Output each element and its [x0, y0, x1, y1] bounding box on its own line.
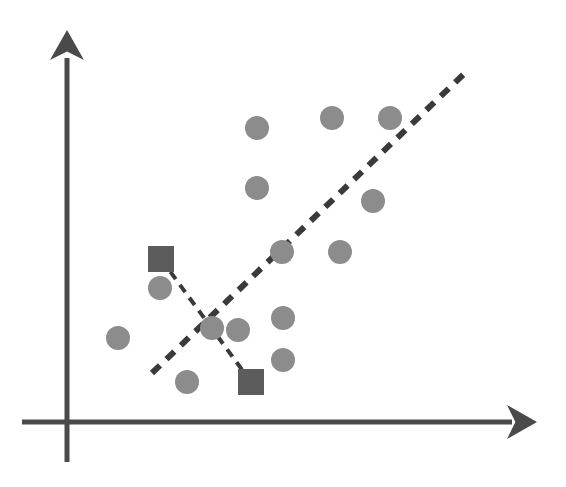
data-point [361, 189, 385, 213]
data-point [245, 176, 269, 200]
data-point [148, 276, 172, 300]
upper-left-square [148, 246, 174, 272]
data-point [270, 240, 294, 264]
data-point [226, 318, 250, 342]
data-point [200, 316, 224, 340]
plot-canvas [0, 0, 566, 487]
data-point [271, 306, 295, 330]
data-point [245, 116, 269, 140]
data-point [320, 106, 344, 130]
lower-right-square [238, 369, 264, 395]
data-point [175, 370, 199, 394]
data-point [328, 240, 352, 264]
data-point [271, 348, 295, 372]
data-point [378, 106, 402, 130]
scatter-plot-figure [0, 0, 566, 487]
data-point [106, 326, 130, 350]
